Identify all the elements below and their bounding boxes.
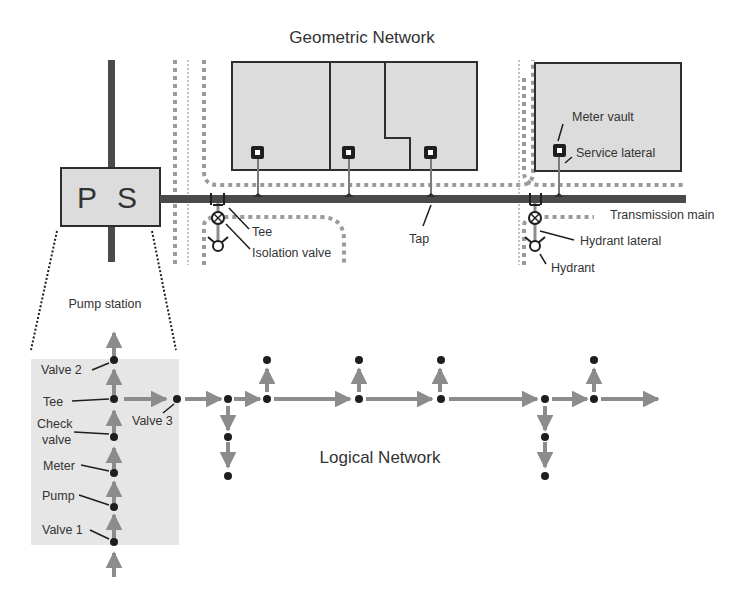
label-service-lateral: Service lateral (576, 146, 655, 160)
pump-station-box: P S (61, 168, 160, 226)
label-tap: Tap (409, 232, 429, 246)
label-valve-3: Valve 3 (132, 414, 173, 428)
pump-outlet-pipe-down (108, 226, 115, 262)
label-tee: Tee (252, 225, 272, 239)
label-valve-2: Valve 2 (41, 363, 82, 377)
hydrant-icon (530, 241, 540, 251)
transmission-main (160, 195, 686, 203)
hydrant-assembly-left (208, 203, 228, 251)
label-valve-1: Valve 1 (42, 523, 83, 537)
label-check: Check (37, 417, 73, 431)
label-transmission-main: Transmission main (610, 208, 714, 222)
label-hydrant-lateral: Hydrant lateral (580, 234, 661, 248)
label-isolation-valve: Isolation valve (252, 246, 331, 260)
label-meter: Meter (43, 459, 75, 473)
hydrant-icon (213, 241, 223, 251)
logical-network-title: Logical Network (320, 448, 441, 467)
geometric-network-title: Geometric Network (289, 28, 435, 47)
pump-station-box-label: P S (77, 181, 143, 214)
label-pump: Pump (42, 489, 75, 503)
pump-station-title: Pump station (69, 297, 142, 311)
pump-inlet-pipe (108, 60, 115, 168)
label-hydrant: Hydrant (551, 261, 595, 275)
label-check-valve: valve (42, 433, 71, 447)
network-diagram: Geometric Network P S (0, 0, 755, 594)
pump-station-panel (31, 359, 179, 545)
label-meter-vault: Meter vault (572, 110, 634, 124)
zoom-projection-lines (31, 231, 176, 350)
hydrant-assembly-right (525, 203, 545, 251)
label-ps-tee: Tee (43, 395, 63, 409)
